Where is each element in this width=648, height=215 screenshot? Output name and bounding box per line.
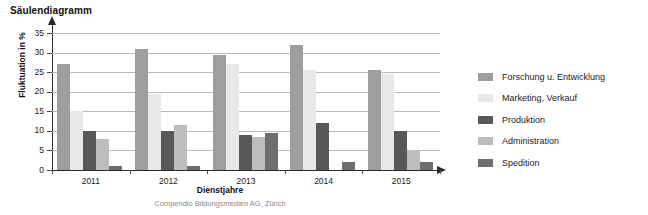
bar <box>407 150 420 170</box>
bar <box>70 111 83 170</box>
bar <box>174 125 187 170</box>
y-tick-mark <box>47 92 52 93</box>
chart-figure: Säulendiagramm Fluktuation in % 05101520… <box>0 0 648 215</box>
bar <box>420 162 433 170</box>
chart-legend: Forschung u. EntwicklungMarketing, Verka… <box>478 66 605 174</box>
legend-color-swatch <box>478 116 493 124</box>
x-tick-mark <box>440 170 441 174</box>
y-axis-arrow-icon <box>48 16 56 25</box>
legend-label: Administration <box>502 136 559 146</box>
legend-color-swatch <box>478 137 493 145</box>
bar <box>57 64 70 170</box>
y-tick-label: 25 <box>18 68 44 77</box>
x-tick-mark <box>285 170 286 174</box>
legend-label: Forschung u. Entwicklung <box>502 72 605 82</box>
bar <box>135 49 148 170</box>
bar <box>252 137 265 170</box>
y-tick-label: 30 <box>18 48 44 57</box>
x-axis-arrow-icon <box>437 166 446 174</box>
y-tick-label: 10 <box>18 126 44 135</box>
y-tick-label: 20 <box>18 87 44 96</box>
y-tick-mark <box>47 111 52 112</box>
bar <box>394 131 407 170</box>
x-tick-mark <box>207 170 208 174</box>
y-tick-mark <box>47 53 52 54</box>
bar <box>213 55 226 170</box>
legend-item: Administration <box>478 131 605 153</box>
bar <box>96 139 109 170</box>
bar <box>148 94 161 170</box>
y-tick-label: 0 <box>18 166 44 175</box>
bar <box>109 166 122 170</box>
y-tick-label: 35 <box>18 29 44 38</box>
legend-label: Marketing, Verkauf <box>502 93 577 103</box>
bar <box>83 131 96 170</box>
credit-line: Compendio Bildungsmedien AG, Zürich <box>0 199 440 208</box>
legend-item: Produktion <box>478 109 605 131</box>
y-tick-mark <box>47 33 52 34</box>
bar <box>226 64 239 170</box>
y-tick-label: 15 <box>18 107 44 116</box>
bar <box>368 70 381 170</box>
bar <box>316 123 329 170</box>
gridline <box>52 72 440 73</box>
x-axis-title: Dienstjahre <box>0 185 440 195</box>
gridline <box>52 33 440 34</box>
legend-color-swatch <box>478 94 493 102</box>
legend-item: Spedition <box>478 152 605 174</box>
y-tick-mark <box>47 72 52 73</box>
x-tick-mark <box>362 170 363 174</box>
bar <box>381 74 394 170</box>
x-tick-mark <box>52 170 53 174</box>
bar <box>290 45 303 170</box>
x-tick-mark <box>130 170 131 174</box>
bar <box>187 166 200 170</box>
y-tick-label: 5 <box>18 146 44 155</box>
legend-item: Marketing, Verkauf <box>478 88 605 110</box>
legend-color-swatch <box>478 159 493 167</box>
y-tick-mark <box>47 131 52 132</box>
bar <box>265 133 278 170</box>
legend-color-swatch <box>478 73 493 81</box>
legend-label: Spedition <box>502 158 540 168</box>
gridline <box>52 53 440 54</box>
y-axis-line <box>52 24 53 171</box>
bar <box>161 131 174 170</box>
bar <box>342 162 355 170</box>
bar <box>303 70 316 170</box>
legend-label: Produktion <box>502 115 545 125</box>
legend-item: Forschung u. Entwicklung <box>478 66 605 88</box>
bar <box>239 135 252 170</box>
y-tick-mark <box>47 150 52 151</box>
